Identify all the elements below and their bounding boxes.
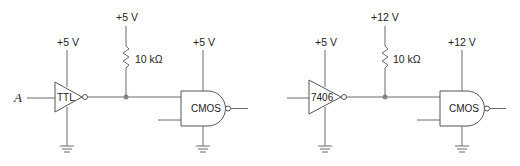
receiver-gate-label: CMOS xyxy=(449,103,479,114)
ground-icon xyxy=(318,146,332,152)
ground-icon xyxy=(455,146,469,152)
driver-gate-label: 7406 xyxy=(311,92,334,103)
driver-supply-label: +5 V xyxy=(315,36,337,48)
driver-gate-label: TTL xyxy=(57,92,75,103)
input-label-a: A xyxy=(13,90,22,105)
nand-bubble-icon xyxy=(226,106,231,111)
receiver-supply-label: +5 V xyxy=(193,36,215,48)
resistor-value-label: 10 kΩ xyxy=(393,53,421,65)
ground-icon xyxy=(60,146,74,152)
driver-supply-label: +5 V xyxy=(57,36,79,48)
inverter-bubble-icon xyxy=(342,95,347,100)
receiver-supply-label: +12 V xyxy=(448,36,476,48)
receiver-gate-label: CMOS xyxy=(191,103,221,114)
circuit-right: +5 V 7406 +12 V 10 kΩ +12 V CMOS xyxy=(287,11,506,152)
nand-bubble-icon xyxy=(485,106,490,111)
resistor-icon xyxy=(382,46,388,68)
pullup-supply-label: +5 V xyxy=(116,11,138,23)
resistor-icon xyxy=(123,46,129,68)
resistor-value-label: 10 kΩ xyxy=(135,53,163,65)
inverter-bubble-icon xyxy=(83,95,88,100)
ground-icon xyxy=(196,146,210,152)
circuit-left: A +5 V TTL +5 V 10 kΩ +5 V CMOS xyxy=(13,11,248,152)
pullup-supply-label: +12 V xyxy=(371,11,399,23)
circuit-diagram: A +5 V TTL +5 V 10 kΩ +5 V CMOS xyxy=(0,0,520,166)
